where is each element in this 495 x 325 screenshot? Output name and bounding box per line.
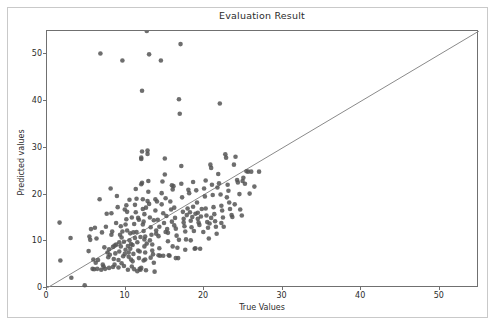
scatter-point — [202, 186, 207, 191]
scatter-point — [238, 207, 243, 212]
scatter-point — [133, 203, 138, 208]
scatter-point — [159, 58, 164, 63]
y-tick-mark — [43, 147, 46, 148]
scatter-point — [177, 97, 182, 102]
scatter-point — [225, 182, 230, 187]
scatter-point — [167, 253, 172, 258]
y-tick-mark — [43, 53, 46, 54]
scatter-point — [126, 254, 131, 259]
scatter-point — [232, 202, 237, 207]
scatter-point — [58, 258, 63, 263]
scatter-point — [150, 248, 155, 253]
scatter-point — [232, 162, 237, 167]
scatter-point — [184, 237, 189, 242]
scatter-point — [157, 246, 162, 251]
y-axis-label: Predicted values — [17, 103, 26, 223]
scatter-point — [215, 185, 220, 190]
scatter-point — [193, 246, 198, 251]
page-title: Evaluation Result — [46, 10, 478, 21]
scatter-point — [145, 152, 150, 157]
scatter-point — [94, 236, 99, 241]
scatter-point — [196, 210, 201, 215]
scatter-point — [149, 232, 154, 237]
scatter-point — [150, 242, 155, 247]
scatter-point — [203, 206, 208, 211]
scatter-point — [183, 247, 188, 252]
scatter-point — [213, 219, 218, 224]
scatter-point — [115, 205, 120, 210]
scatter-point — [154, 231, 159, 236]
x-tick-mark — [203, 287, 204, 290]
scatter-point — [172, 223, 177, 228]
scatter-point — [141, 229, 146, 234]
scatter-point — [134, 230, 139, 235]
scatter-point — [188, 238, 193, 243]
y-tick-mark — [43, 100, 46, 101]
scatter-point — [219, 221, 224, 226]
scatter-point — [187, 191, 192, 196]
x-axis-label: True Values — [46, 303, 478, 312]
scatter-point — [137, 217, 142, 222]
x-tick-mark — [125, 287, 126, 290]
plot-area — [46, 30, 478, 287]
scatter-point — [228, 207, 233, 212]
scatter-point — [95, 267, 100, 272]
scatter-point — [188, 210, 193, 215]
scatter-point — [111, 257, 116, 262]
scatter-point — [115, 194, 120, 199]
scatter-point — [196, 217, 201, 222]
scatter-point — [96, 258, 101, 263]
x-tick-mark — [439, 287, 440, 290]
scatter-point — [191, 204, 196, 209]
scatter-point — [230, 215, 235, 220]
scatter-point — [236, 180, 241, 185]
scatter-point — [102, 245, 107, 250]
chart-figure: Evaluation Result 01020304050 0102030405… — [0, 0, 495, 325]
scatter-point — [252, 184, 257, 189]
scatter-point — [104, 224, 109, 229]
scatter-point — [210, 193, 215, 198]
scatter-point — [137, 256, 142, 261]
y-tick-label: 40 — [32, 96, 42, 105]
scatter-point — [174, 256, 179, 261]
scatter-point — [163, 196, 168, 201]
scatter-point — [177, 111, 182, 116]
x-tick-mark — [360, 287, 361, 290]
y-tick-label: 0 — [37, 283, 42, 292]
scatter-point — [216, 172, 221, 177]
scatter-point — [224, 155, 229, 160]
scatter-point — [181, 210, 186, 215]
scatter-point — [134, 196, 139, 201]
scatter-point — [197, 223, 202, 228]
scatter-point — [170, 244, 175, 249]
scatter-point — [103, 267, 108, 272]
scatter-point — [139, 266, 144, 271]
scatter-point — [209, 166, 214, 171]
scatter-point — [120, 229, 125, 234]
scatter-point — [161, 253, 166, 258]
y-tick-label: 10 — [32, 236, 42, 245]
scatter-point — [155, 217, 160, 222]
scatter-point — [159, 202, 164, 207]
scatter-point — [119, 235, 124, 240]
scatter-point — [141, 222, 146, 227]
x-tick-label: 0 — [43, 291, 48, 300]
scatter-point — [146, 179, 151, 184]
scatter-point — [124, 203, 129, 208]
x-tick-label: 10 — [119, 291, 129, 300]
scatter-point — [237, 192, 242, 197]
scatter-point — [249, 169, 254, 174]
scatter-point — [119, 244, 124, 249]
scatter-point — [114, 221, 119, 226]
scatter-point — [142, 212, 147, 217]
scatter-point — [144, 241, 149, 246]
scatter-point — [179, 164, 184, 169]
scatter-point — [86, 249, 91, 254]
scatter-point — [124, 217, 129, 222]
scatter-point — [128, 231, 133, 236]
scatter-point — [201, 230, 206, 235]
scatter-point — [113, 251, 118, 256]
scatter-point — [168, 199, 173, 204]
scatter-point — [139, 155, 144, 160]
y-tick-label: 50 — [32, 49, 42, 58]
